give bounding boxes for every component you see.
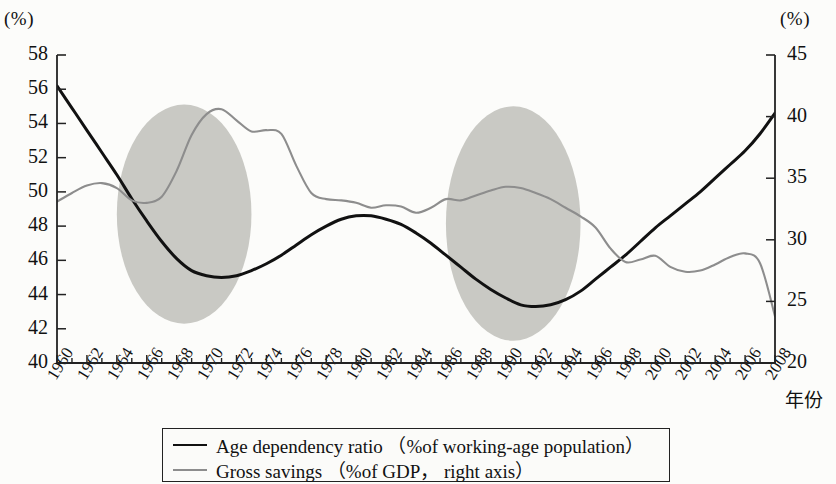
left-tick-44: 44	[14, 282, 48, 305]
chart-canvas	[57, 55, 775, 363]
plot-area	[57, 55, 775, 363]
right-tick-35: 35	[787, 165, 827, 188]
left-tick-58: 58	[14, 42, 48, 65]
right-tick-25: 25	[787, 288, 827, 311]
left-axis-unit-label: (%)	[4, 8, 34, 30]
legend-label-gross-savings: Gross savings （%of GDP， right axis）	[216, 456, 534, 483]
left-tick-50: 50	[14, 179, 48, 202]
legend: Age dependency ratio （%of working-age po…	[162, 428, 670, 482]
highlight-ellipse-2	[446, 106, 581, 340]
right-tick-30: 30	[787, 227, 827, 250]
highlight-ellipse-1	[117, 105, 252, 324]
left-tick-56: 56	[14, 76, 48, 99]
legend-line-swatch-black	[173, 444, 207, 446]
left-tick-52: 52	[14, 145, 48, 168]
right-tick-45: 45	[787, 42, 827, 65]
chart-figure: (%) (%) 58565452504846444240 45403530252…	[0, 0, 836, 484]
left-tick-54: 54	[14, 110, 48, 133]
highlight-regions	[117, 105, 581, 341]
legend-item-gross-savings: Gross savings （%of GDP， right axis）	[173, 457, 659, 482]
legend-label-age-dependency-ratio: Age dependency ratio （%of working-age po…	[216, 431, 644, 458]
left-tick-48: 48	[14, 213, 48, 236]
legend-line-swatch-gray	[173, 469, 207, 471]
left-tick-46: 46	[14, 247, 48, 270]
x-axis-title: 年份	[785, 385, 823, 412]
legend-item-age-dependency-ratio: Age dependency ratio （%of working-age po…	[173, 432, 659, 457]
left-tick-40: 40	[14, 350, 48, 373]
right-axis-unit-label: (%)	[780, 8, 810, 30]
right-tick-40: 40	[787, 104, 827, 127]
left-tick-42: 42	[14, 316, 48, 339]
